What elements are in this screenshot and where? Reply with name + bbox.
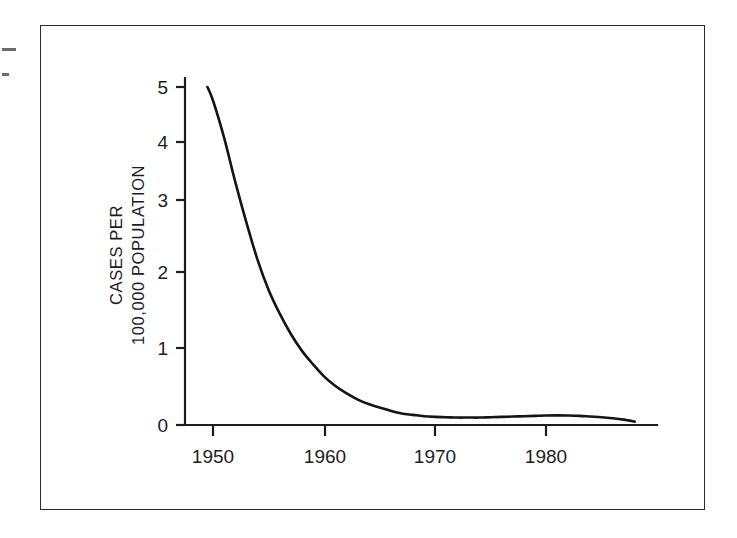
figure-page: 0 1 2 3 4 5 1950 1960 1970 1980 CASES PE… xyxy=(0,0,737,538)
y-tick-label-2: 2 xyxy=(157,262,168,283)
y-axis-title-line1: CASES PER xyxy=(107,205,125,305)
x-tick-label-1980: 1980 xyxy=(525,446,567,467)
y-tick-label-4: 4 xyxy=(157,132,168,153)
y-tick-label-1: 1 xyxy=(157,338,168,359)
y-axis-title: CASES PER 100,000 POPULATION xyxy=(107,165,147,345)
y-tick-label-0: 0 xyxy=(157,415,168,436)
line-chart: 0 1 2 3 4 5 1950 1960 1970 1980 CASES PE… xyxy=(0,0,737,538)
x-tick-label-1970: 1970 xyxy=(414,446,456,467)
y-tick-label-3: 3 xyxy=(157,190,168,211)
y-axis-ticks xyxy=(176,87,185,425)
x-tick-label-1960: 1960 xyxy=(304,446,346,467)
x-axis-tick-labels: 1950 1960 1970 1980 xyxy=(192,446,567,467)
y-tick-label-5: 5 xyxy=(157,77,168,98)
data-series-line xyxy=(207,87,634,422)
y-axis-title-line2: 100,000 POPULATION xyxy=(129,165,147,345)
y-axis-tick-labels: 0 1 2 3 4 5 xyxy=(157,77,168,436)
x-tick-label-1950: 1950 xyxy=(192,446,234,467)
x-axis-ticks xyxy=(213,425,546,436)
